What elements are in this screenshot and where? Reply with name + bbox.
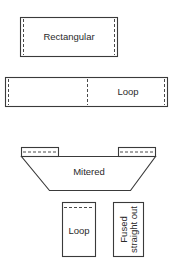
shape-mitered: Mitered — [22, 148, 156, 191]
shape-loop-small: Loop — [63, 203, 96, 257]
mitered-label: Mitered — [73, 166, 105, 177]
loop-small-label: Loop — [68, 225, 89, 236]
loop-long-label: Loop — [117, 86, 138, 97]
fused-label-line2: straight out — [128, 206, 139, 253]
shape-rectangular: Rectangular — [21, 18, 118, 57]
diagram-canvas: Rectangular Loop Mitered Loop Fused stra… — [0, 0, 173, 268]
rectangular-label: Rectangular — [43, 31, 94, 42]
shape-loop-long: Loop — [6, 78, 168, 107]
shape-fused: Fused straight out — [114, 203, 144, 257]
loop-long-outline — [6, 78, 168, 107]
